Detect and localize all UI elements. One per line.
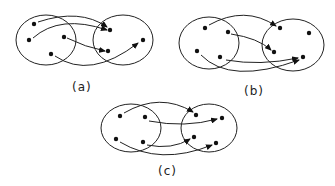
caption-b: (b) — [244, 84, 264, 98]
caption-c: (c) — [158, 164, 177, 178]
diagram-a — [16, 15, 153, 65]
diagram-c — [101, 102, 237, 155]
diagram-b — [179, 15, 324, 71]
codomain-set-ellipse — [181, 104, 237, 152]
domain-set-ellipse — [101, 104, 161, 152]
codomain-set-ellipse — [262, 19, 324, 71]
caption-a: (a) — [72, 80, 92, 94]
mapping-diagrams — [0, 0, 335, 186]
domain-set-ellipse — [16, 15, 76, 65]
